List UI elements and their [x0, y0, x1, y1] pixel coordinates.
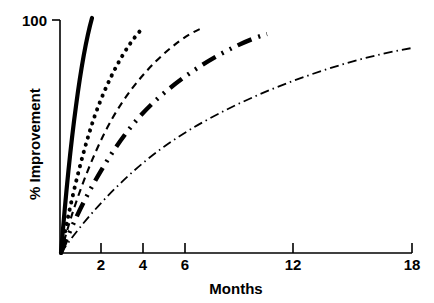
series-curve-4-dash-dot-dot [61, 34, 267, 253]
y-axis-title: % Improvement [26, 88, 43, 200]
x-axis-tick-label-6: 6 [181, 256, 189, 273]
x-axis-tick-label-4: 4 [139, 256, 147, 273]
x-axis-tick-label-12: 12 [285, 256, 302, 273]
x-axis-title: Months [209, 280, 262, 297]
plot-area [0, 0, 434, 303]
x-axis-tick-label-18: 18 [404, 256, 421, 273]
series-curve-5-dash-dot [61, 48, 412, 253]
y-axis-tick-label-100: 100 [22, 12, 47, 29]
improvement-vs-months-chart: 100 2 4 6 12 18 Months % Improvement [0, 0, 434, 303]
x-axis-tick-label-2: 2 [97, 256, 105, 273]
